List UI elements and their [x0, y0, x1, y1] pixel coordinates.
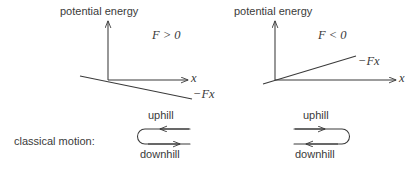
motion-loop-path [294, 129, 350, 144]
downhill-label: downhill [140, 149, 180, 160]
downhill-label: downhill [295, 149, 335, 160]
motion-loop-path [138, 129, 191, 144]
figure-canvas: potential energy F > 0 −Fx x uphill down… [0, 0, 416, 174]
classical-motion-label: classical motion: [14, 135, 95, 147]
panel-force-negative: potential energy F < 0 −Fx x uphill down… [208, 0, 416, 174]
panel-force-positive: potential energy F > 0 −Fx x uphill down… [0, 0, 208, 174]
